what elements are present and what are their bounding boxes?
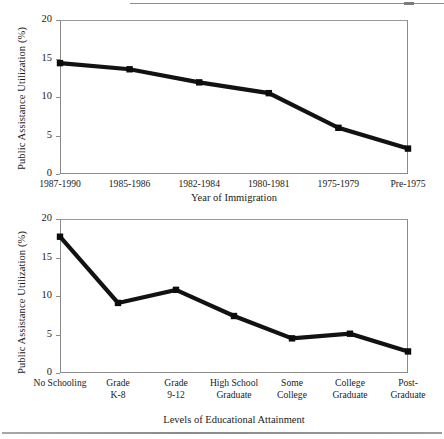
data-point-marker [173, 287, 179, 293]
chart2-x-axis-title: Levels of Educational Attainment [60, 414, 408, 425]
series-line [60, 237, 408, 352]
series-line [60, 63, 408, 148]
data-point-marker [115, 300, 121, 306]
chart1-x-axis-title: Year of Immigration [60, 192, 408, 203]
data-point-marker [335, 125, 341, 131]
chart1-series [0, 0, 444, 205]
data-point-marker [126, 66, 132, 72]
figure-page: Public Assistance Utilization (%) 051015… [0, 0, 444, 439]
data-point-marker [57, 60, 63, 66]
chart2-series [0, 205, 444, 439]
data-point-marker [289, 335, 295, 341]
data-point-marker [196, 79, 202, 85]
data-point-marker [405, 348, 411, 354]
page-rule-bottom [2, 432, 442, 434]
data-point-marker [266, 90, 272, 96]
data-point-marker [57, 234, 63, 240]
data-point-marker [231, 313, 237, 319]
data-point-marker [347, 331, 353, 337]
data-point-marker [405, 145, 411, 151]
chart-immigration: Public Assistance Utilization (%) 051015… [0, 0, 444, 205]
chart-education: Public Assistance Utilization (%) 051015… [0, 205, 444, 439]
